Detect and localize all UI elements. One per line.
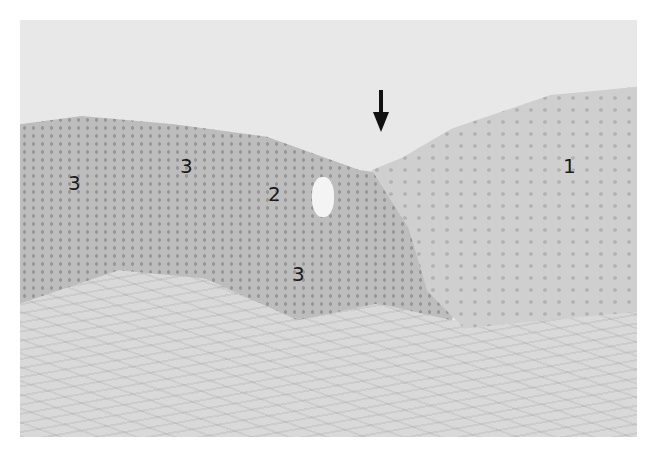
label-2: 2 [268,184,281,204]
down-arrow-icon [373,90,389,132]
label-3-left: 3 [68,173,81,193]
label-3-bottom: 3 [292,264,305,284]
label-3-top: 3 [180,156,193,176]
label-1: 1 [563,156,576,176]
vacuole [312,177,334,217]
micrograph-image [20,20,637,437]
arrow-head [373,112,389,132]
arrow-shaft [379,90,383,114]
